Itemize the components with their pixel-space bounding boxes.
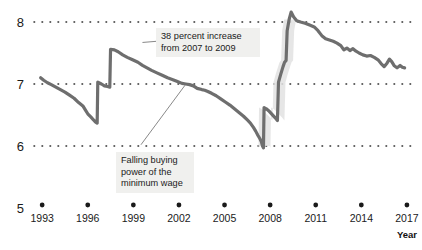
- annotation-38-percent-increase: 38 percent increase from 2007 to 2009: [156, 28, 260, 57]
- x-tick-dot: [40, 203, 45, 208]
- x-axis-tick-dots: [40, 203, 410, 208]
- x-axis-title: Year: [397, 229, 417, 240]
- x-tick-label: 2008: [258, 212, 282, 224]
- x-tick-label: 2005: [213, 212, 237, 224]
- x-tick-dot: [313, 203, 318, 208]
- x-tick-label: 2011: [304, 212, 327, 224]
- x-tick-dot: [222, 203, 227, 208]
- x-tick-dot: [131, 203, 136, 208]
- x-tick-dot: [85, 203, 90, 208]
- x-tick-label: 1993: [30, 212, 54, 224]
- x-tick-label: 2014: [350, 212, 374, 224]
- x-tick-label: 1999: [122, 212, 146, 224]
- minimum-wage-chart: 8765 19931996199920022005200820112014201…: [0, 0, 422, 250]
- x-tick-label: 2017: [395, 212, 419, 224]
- y-axis-labels: 8765: [17, 15, 24, 216]
- x-tick-dot: [177, 203, 182, 208]
- x-tick-label: 2002: [167, 212, 191, 224]
- x-tick-dot: [405, 203, 410, 208]
- y-tick-label: 8: [17, 15, 24, 30]
- x-tick-label: 1996: [76, 212, 100, 224]
- x-axis-labels: 199319961999200220052008201120142017: [30, 212, 418, 224]
- annotation-falling-buying-power: Falling buying power of the minimum wage: [116, 152, 194, 193]
- annotation-leader-falling: [141, 85, 185, 145]
- x-tick-dot: [268, 203, 273, 208]
- y-tick-label: 5: [17, 201, 24, 216]
- y-tick-label: 6: [17, 139, 24, 154]
- x-tick-dot: [359, 203, 364, 208]
- y-tick-label: 7: [17, 77, 24, 92]
